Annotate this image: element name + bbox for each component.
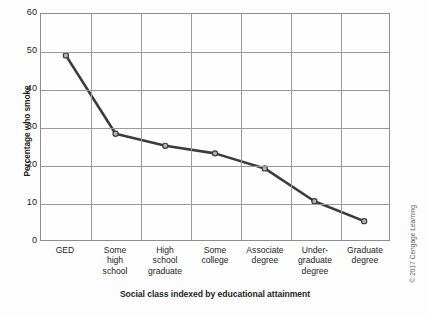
data-point-marker [212,151,217,156]
x-tick-label-line: Some [190,245,240,255]
x-tick-label-line: Under- [290,245,340,255]
x-tick-label-line: Graduate [340,245,390,255]
y-tick-label: 40 [1,83,37,93]
x-tick-label: Under-graduatedegree [290,245,340,276]
y-tick-label: 60 [1,7,37,17]
data-point-marker [312,199,317,204]
gridline-vertical [291,14,292,240]
gridline-horizontal [41,166,389,167]
x-tick-label-line: Some [90,245,140,255]
x-tick-label: Somehighschool [90,245,140,276]
gridline-vertical [241,14,242,240]
x-tick-label-line: graduate [140,266,190,276]
x-tick-label-line: degree [240,255,290,265]
plot-area [40,13,390,241]
x-tick-label-line: GED [40,245,90,255]
x-tick-label-line: degree [290,266,340,276]
x-tick-label-line: degree [340,255,390,265]
data-point-marker [362,219,367,224]
x-tick-label-line: college [190,255,240,265]
x-tick-label: GED [40,245,90,255]
y-axis-tick-labels: 0102030405060 [0,0,37,316]
gridline-horizontal [41,52,389,53]
data-point-marker [163,143,168,148]
x-tick-label-line: school [90,266,140,276]
gridline-horizontal [41,90,389,91]
figure-container: Percentage who smoke 0102030405060 GEDSo… [0,0,429,316]
y-tick-label: 20 [1,159,37,169]
x-tick-label: Somecollege [190,245,240,266]
gridline-vertical [141,14,142,240]
y-tick-label: 50 [1,45,37,55]
plot-inner [41,14,389,240]
x-tick-label-line: school [140,255,190,265]
gridline-vertical [191,14,192,240]
y-tick-label: 0 [1,235,37,245]
series-line [66,55,364,221]
x-tick-label: Highschoolgraduate [140,245,190,276]
copyright-credit: © 2017 Cengage Learning [409,173,416,283]
gridline-horizontal [41,204,389,205]
x-tick-label-line: Associate [240,245,290,255]
y-tick-label: 30 [1,121,37,131]
x-tick-label-line: high [90,255,140,265]
x-tick-label-line: graduate [290,255,340,265]
gridline-vertical [91,14,92,240]
gridline-vertical [341,14,342,240]
x-tick-label: Associatedegree [240,245,290,266]
y-tick-label: 10 [1,197,37,207]
x-axis-tick-labels: GEDSomehighschoolHighschoolgraduateSomec… [40,245,390,287]
x-axis-title: Social class indexed by educational atta… [40,289,390,299]
x-tick-label-line: High [140,245,190,255]
x-tick-label: Graduatedegree [340,245,390,266]
data-point-marker [113,131,118,136]
data-point-marker [63,53,68,58]
gridline-horizontal [41,128,389,129]
data-series-line [41,14,389,240]
